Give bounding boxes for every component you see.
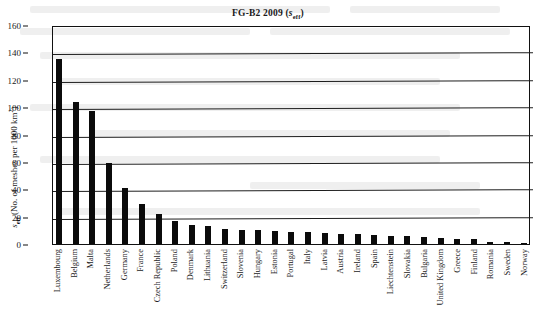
x-label-slot: Sweden (505, 248, 511, 334)
bar (288, 232, 294, 244)
bar (122, 188, 128, 244)
x-label-slot: Estonia (272, 248, 278, 334)
y-tick-label: 140 (8, 48, 22, 58)
y-tick-label: 80 (12, 131, 21, 141)
x-tick-label: Romania (487, 249, 495, 279)
x-label-slot: Slovenia (238, 248, 244, 334)
bar (338, 234, 344, 244)
x-tick-label: Portugal (287, 249, 295, 277)
x-label-slot: Slovakia (405, 248, 411, 334)
bar (521, 243, 527, 244)
x-label-slot: Romania (488, 248, 494, 334)
x-axis-labels: LuxembourgBelgiumMaltaNetherlandsGermany… (52, 248, 530, 334)
x-tick-label: Estonia (271, 249, 279, 274)
x-tick-label: Liechtenstein (387, 249, 395, 294)
y-tick-mark (23, 108, 28, 109)
bar (56, 59, 62, 244)
x-label-slot: Spain (372, 248, 378, 334)
x-label-slot: Norway (522, 248, 528, 334)
x-tick-label: Slovenia (237, 249, 245, 278)
x-tick-label: Ireland (354, 249, 362, 273)
bar (504, 242, 510, 244)
bar (305, 232, 311, 244)
x-label-slot: Italy (305, 248, 311, 334)
y-tick-mark (23, 162, 28, 163)
x-tick-label: Lithuania (204, 249, 212, 281)
x-label-slot: Finland (472, 248, 478, 334)
x-label-slot: Greece (455, 248, 461, 334)
bar (222, 229, 228, 244)
bar (388, 236, 394, 244)
x-label-slot: Germany (122, 248, 128, 334)
y-tick-label: 40 (12, 185, 21, 195)
x-tick-label: Poland (171, 249, 179, 272)
y-tick-mark (23, 80, 28, 81)
x-tick-label: France (137, 249, 145, 272)
bar (487, 242, 493, 244)
bar (189, 225, 195, 244)
x-label-slot: Luxembourg (55, 248, 61, 334)
x-label-slot: Lithuania (205, 248, 211, 334)
bar (355, 234, 361, 244)
x-label-slot: Poland (172, 248, 178, 334)
x-label-slot: Liechtenstein (388, 248, 394, 334)
bar (172, 221, 178, 244)
x-tick-label: Greece (454, 249, 462, 273)
x-label-slot: Belgium (72, 248, 78, 334)
y-tick-mark (23, 26, 28, 27)
bar (205, 226, 211, 244)
x-tick-label: Italy (304, 249, 312, 264)
x-tick-label: Czech Republic (154, 249, 162, 302)
x-tick-label: United Kingdom (437, 249, 445, 306)
bar (371, 235, 377, 244)
x-label-slot: Bulgaria (422, 248, 428, 334)
x-label-slot: Hungary (255, 248, 261, 334)
x-label-slot: Ireland (355, 248, 361, 334)
x-tick-label: Hungary (254, 249, 262, 278)
plot-area (52, 26, 530, 245)
x-label-slot: Czech Republic (155, 248, 161, 334)
x-tick-label: Sweden (504, 249, 512, 276)
y-axis: seff (No. of meshes per 1000 km2) 020406… (0, 0, 52, 334)
y-tick-mark (23, 245, 28, 246)
x-tick-label: Malta (87, 249, 95, 269)
x-label-slot: France (138, 248, 144, 334)
x-tick-label: Norway (521, 249, 529, 276)
bar (404, 236, 410, 244)
figure-container: FG-B2 2009 (seff) seff (No. of meshes pe… (0, 0, 536, 334)
bar (73, 102, 79, 244)
bar (139, 204, 145, 244)
x-tick-label: Bulgaria (421, 249, 429, 278)
x-tick-label: Germany (120, 249, 128, 280)
y-tick-label: 20 (12, 213, 21, 223)
x-tick-label: Denmark (187, 249, 195, 280)
bar (322, 233, 328, 244)
y-tick-mark (23, 217, 28, 218)
x-label-slot: Austria (338, 248, 344, 334)
x-tick-label: Finland (471, 249, 479, 275)
bar (438, 238, 444, 244)
bar (421, 237, 427, 244)
x-tick-label: Spain (371, 249, 379, 268)
x-label-slot: Malta (88, 248, 94, 334)
bar (156, 214, 162, 244)
x-label-slot: Switzerland (222, 248, 228, 334)
bar (106, 163, 112, 244)
x-label-slot: Denmark (188, 248, 194, 334)
x-tick-label: Austria (337, 249, 345, 274)
x-label-slot: Portugal (288, 248, 294, 334)
y-tick-label: 60 (12, 158, 21, 168)
y-tick-mark (23, 53, 28, 54)
y-tick-label: 160 (8, 21, 22, 31)
x-tick-label: Luxembourg (54, 249, 62, 292)
bar (239, 230, 245, 244)
x-label-slot: Netherlands (105, 248, 111, 334)
x-tick-label: Latvia (321, 249, 329, 270)
x-label-slot: United Kingdom (438, 248, 444, 334)
y-tick-mark (23, 190, 28, 191)
bar (89, 111, 95, 244)
x-tick-label: Netherlands (104, 249, 112, 289)
y-tick-label: 0 (17, 240, 22, 250)
y-tick-mark (23, 135, 28, 136)
chart-title: FG-B2 2009 (seff) (0, 8, 536, 20)
